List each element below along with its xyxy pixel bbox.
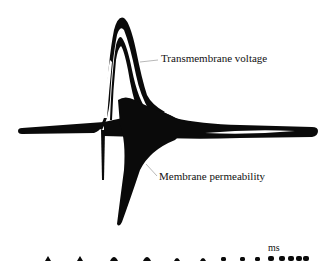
time-markers <box>45 256 309 261</box>
trace-graphic <box>0 0 334 268</box>
permeability-trace <box>117 98 190 226</box>
action-potential-figure: Transmembrane voltage Membrane permeabil… <box>0 0 334 268</box>
voltage-label: Transmembrane voltage <box>161 52 267 64</box>
time-unit-label: ms <box>268 242 280 253</box>
voltage-leader-line <box>140 60 158 62</box>
permeability-leader-line <box>146 164 157 176</box>
permeability-label: Membrane permeability <box>159 170 265 182</box>
